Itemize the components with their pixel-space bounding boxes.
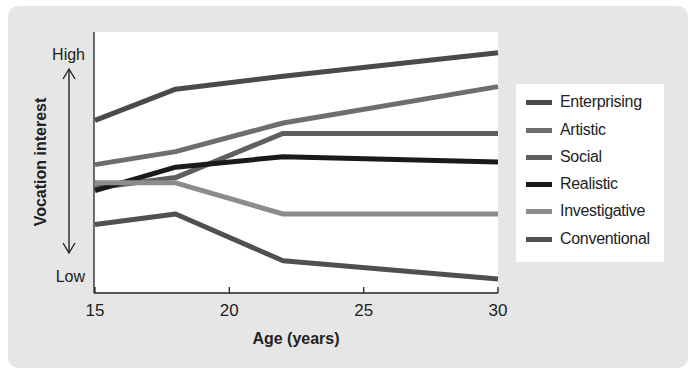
x-tick-label: 15: [86, 301, 105, 320]
x-tick-label: 30: [489, 301, 508, 320]
x-tick-label: 25: [354, 301, 373, 320]
x-tick-label: 20: [220, 301, 239, 320]
legend-swatch: [526, 128, 552, 133]
double-arrow-icon: [63, 69, 75, 253]
legend-swatch: [526, 100, 552, 105]
legend: Enterprising Artistic Social Realistic I…: [516, 84, 664, 262]
y-high-label: High: [52, 46, 85, 63]
legend-swatch: [526, 155, 552, 160]
legend-item-artistic: Artistic: [526, 120, 606, 140]
legend-swatch: [526, 182, 552, 187]
legend-item-investigative: Investigative: [526, 201, 645, 221]
legend-item-social: Social: [526, 147, 602, 167]
legend-swatch: [526, 209, 552, 214]
legend-item-conventional: Conventional: [526, 229, 650, 249]
legend-swatch: [526, 237, 552, 242]
y-low-label: Low: [56, 268, 86, 285]
x-axis-title: Age (years): [252, 330, 339, 347]
y-axis-title: Vocation interest: [32, 97, 49, 226]
legend-item-realistic: Realistic: [526, 174, 618, 194]
legend-item-enterprising: Enterprising: [526, 92, 642, 112]
